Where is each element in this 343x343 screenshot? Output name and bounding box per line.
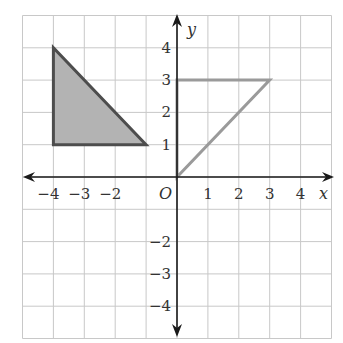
outline-triangle [177,80,270,177]
shaded-triangle [53,48,146,145]
y-tick-label: 4 [161,39,171,57]
y-tick-label: 2 [161,103,171,121]
y-tick-label: −2 [149,233,171,251]
x-tick-label: −2 [99,185,121,203]
y-axis-label: y [186,20,197,39]
y-tick-label: −4 [149,297,171,315]
x-tick-label: 4 [296,185,306,203]
coordinate-plane: −4−3−212344321−2−3−4 x y O [0,0,343,343]
y-tick-label: −3 [149,265,171,283]
x-tick-label: 2 [234,185,244,203]
origin-label: O [159,184,172,203]
x-tick-label: 3 [265,185,275,203]
x-tick-label: −3 [68,185,90,203]
x-tick-label: 1 [203,185,213,203]
x-axis-label: x [319,184,328,203]
y-tick-label: 3 [161,71,171,89]
y-tick-label: 1 [161,136,171,154]
x-tick-label: −4 [37,185,59,203]
